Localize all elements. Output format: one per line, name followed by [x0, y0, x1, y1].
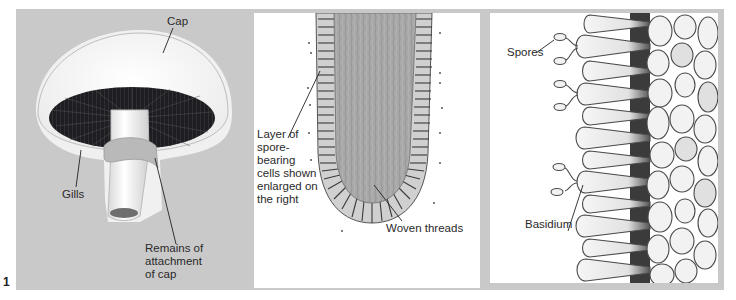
- gills-label: Gills: [62, 188, 84, 201]
- cap-label: Cap: [167, 15, 188, 28]
- layer-label: Layer of spore- bearing cells shown enla…: [257, 128, 318, 206]
- figure-number: 1: [3, 275, 10, 289]
- spores-label: Spores: [507, 46, 543, 59]
- remains-label: Remains of attachment of cap: [145, 242, 203, 281]
- basidium-label: Basidium: [525, 218, 572, 231]
- woven-threads-label: Woven threads: [386, 222, 463, 235]
- mushroom-illustration: [0, 0, 254, 300]
